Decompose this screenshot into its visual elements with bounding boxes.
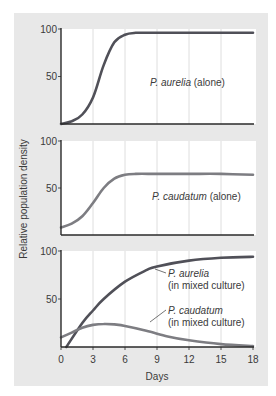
x-tick-label: 18 — [247, 354, 259, 365]
y-tick-label: 50 — [46, 183, 58, 194]
panel-2: 50100 — [40, 136, 256, 236]
y-tick-label: 100 — [40, 136, 57, 147]
svg-text:P. aurelia (alone): P. aurelia (alone) — [150, 77, 225, 88]
annotation-species: P. caudatum — [152, 191, 207, 202]
x-tick-label: 15 — [215, 354, 227, 365]
annotation-species: P. aurelia — [150, 77, 191, 88]
x-tick-label: 9 — [154, 354, 160, 365]
annotation-condition: (alone) — [191, 77, 225, 88]
annotation-species: P. caudatum — [168, 305, 223, 316]
y-axis-title: Relative population density — [18, 139, 29, 259]
y-tick-label: 100 — [40, 246, 57, 257]
population-chart-figure: Relative population density 501005010050… — [0, 0, 276, 396]
y-tick-label: 50 — [46, 294, 58, 305]
annotation-species: P. aurelia — [168, 268, 209, 279]
annotation-condition: (in mixed culture) — [168, 280, 245, 291]
annotation-condition: (alone) — [207, 191, 241, 202]
x-tick-label: 0 — [58, 354, 64, 365]
annotation-condition: (in mixed culture) — [168, 317, 245, 328]
panel-3: 50100 — [40, 246, 256, 351]
panels: 501005010050100 — [40, 24, 256, 351]
y-tick-label: 100 — [40, 24, 57, 35]
annotation-p-aurelia-alone: P. aurelia (alone) — [150, 77, 225, 88]
panel-1: 50100 — [40, 24, 256, 125]
y-tick-label: 50 — [46, 71, 58, 82]
plot-area — [61, 141, 256, 235]
svg-text:P. caudatum (alone): P. caudatum (alone) — [152, 191, 241, 202]
annotation-p-caudatum-alone: P. caudatum (alone) — [152, 191, 241, 202]
x-tick-label: 12 — [183, 354, 195, 365]
x-tick-label: 3 — [90, 354, 96, 365]
x-axis-title: Days — [146, 371, 169, 382]
x-tick-label: 6 — [122, 354, 128, 365]
